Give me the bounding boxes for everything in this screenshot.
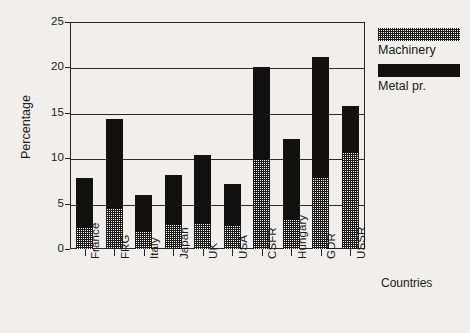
bar-frg: [106, 119, 123, 249]
y-tick-label-0: 0: [58, 243, 65, 255]
x-tick-label-france: France: [89, 223, 101, 259]
y-tick-label-15: 15: [51, 107, 64, 119]
y-tick-label-20: 20: [51, 61, 64, 73]
bar-segment-metal-france: [76, 178, 93, 228]
x-tick-mark-italy: [144, 249, 145, 256]
x-tick-mark-frg: [114, 249, 115, 256]
x-tick-label-gdr: GDR: [325, 233, 337, 259]
bars-layer: [70, 22, 365, 249]
x-tick-label-csfr: CSFR: [266, 227, 278, 259]
y-tick-label-25: 25: [51, 16, 64, 28]
legend-item-machinery: Machinery: [378, 28, 468, 57]
y-tick-label-5: 5: [58, 198, 65, 210]
x-tick-label-usa: USA: [237, 235, 249, 259]
x-tick-label-ussr: USSR: [355, 227, 367, 259]
legend-label-machinery: Machinery: [378, 43, 468, 57]
x-tick-mark-csfr: [262, 249, 263, 256]
bar-uk: [194, 155, 211, 249]
x-axis: FranceFRGItalyJapanUKUSACSFRHungaryGDRUS…: [70, 249, 365, 333]
x-tick-label-japan: Japan: [178, 227, 190, 259]
bar-csfr: [253, 67, 270, 249]
x-axis-title: Countries: [381, 276, 432, 290]
bar-segment-metal-italy: [135, 195, 152, 232]
x-tick-mark-france: [85, 249, 86, 256]
x-tick-mark-hungary: [291, 249, 292, 256]
bar-segment-metal-csfr: [253, 67, 270, 160]
bar-segment-metal-gdr: [312, 57, 329, 179]
bar-segment-metal-uk: [194, 155, 211, 223]
bar-segment-metal-frg: [106, 119, 123, 209]
x-tick-mark-usa: [232, 249, 233, 256]
bar-segment-metal-ussr: [342, 106, 359, 153]
bar-segment-metal-usa: [224, 184, 241, 227]
y-axis: 0510152025: [0, 0, 70, 333]
bar-segment-metal-hungary: [283, 139, 300, 220]
x-tick-label-uk: UK: [207, 243, 219, 259]
x-tick-label-hungary: Hungary: [296, 215, 308, 259]
x-tick-mark-gdr: [321, 249, 322, 256]
x-tick-mark-japan: [173, 249, 174, 256]
x-tick-mark-ussr: [350, 249, 351, 256]
bar-gdr: [312, 57, 329, 249]
legend-label-metal-pr: Metal pr.: [378, 79, 468, 93]
x-tick-label-frg: FRG: [119, 234, 131, 259]
x-tick-label-italy: Italy: [148, 237, 160, 259]
hatched-swatch: [378, 28, 460, 41]
chart-legend: MachineryMetal pr.: [378, 28, 468, 100]
chart-canvas: Percentage 0510152025 FranceFRGItalyJapa…: [0, 0, 470, 333]
bar-segment-metal-japan: [165, 175, 182, 226]
x-tick-mark-uk: [203, 249, 204, 256]
legend-item-metal-pr: Metal pr.: [378, 64, 468, 93]
solid-black-swatch: [378, 64, 460, 77]
y-tick-label-10: 10: [51, 152, 64, 164]
